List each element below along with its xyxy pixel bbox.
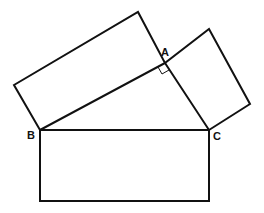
vertex-label-c: C (213, 131, 221, 142)
vertex-label-b: B (27, 130, 35, 141)
bottom-rectangle-bc (40, 130, 209, 201)
left-rectangle-ab (14, 12, 165, 130)
right-rectangle-ac (165, 29, 250, 130)
vertex-label-a: A (161, 47, 169, 58)
diagram-canvas (0, 0, 264, 213)
